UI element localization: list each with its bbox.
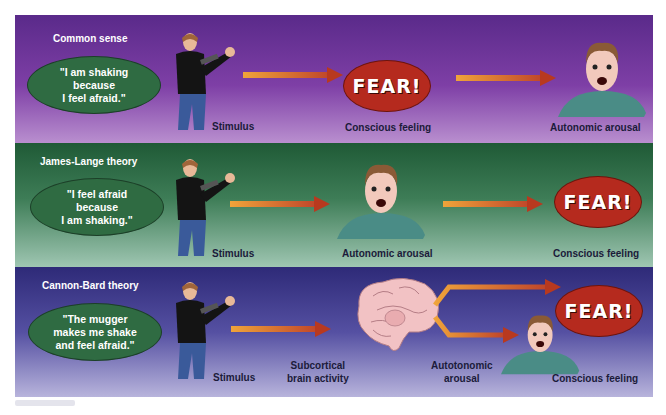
arrow-right-icon xyxy=(456,70,556,86)
fear-bubble: FEAR! xyxy=(343,60,431,112)
label-stimulus: Stimulus xyxy=(213,371,255,384)
label-stimulus: Stimulus xyxy=(212,120,254,133)
panel-title: Cannon-Bard theory xyxy=(42,280,139,291)
panel-james-lange: James-Lange theory "I feel afraid becaus… xyxy=(15,143,653,267)
quote-text: "I feel afraid because I am shaking." xyxy=(61,188,133,227)
panel-common-sense: Common sense "I am shaking because I fee… xyxy=(15,15,653,143)
brain-icon xyxy=(353,276,441,356)
arrow-right-icon xyxy=(443,196,543,212)
label-subcortical-brain-activity: Subcortical brain activity xyxy=(287,359,349,385)
quote-ellipse: "I feel afraid because I am shaking." xyxy=(30,178,164,236)
frightened-face-icon xyxy=(558,37,648,119)
arrow-right-icon xyxy=(231,321,331,337)
fear-bubble: FEAR! xyxy=(554,176,642,228)
panel-cannon-bard: Cannon-Bard theory "The mugger makes me … xyxy=(15,267,653,397)
label-autonomic-arousal: Autonomic arousal xyxy=(342,247,433,260)
frightened-face-icon xyxy=(337,159,427,241)
label-conscious-feeling: Conscious feeling xyxy=(345,121,431,134)
arrow-right-icon xyxy=(243,67,343,83)
label-conscious-feeling: Conscious feeling xyxy=(552,372,638,385)
mugger-with-gun-icon xyxy=(170,32,248,132)
quote-text: "I am shaking because I feel afraid." xyxy=(60,66,129,105)
figure-caption-fragment xyxy=(15,400,75,406)
quote-ellipse: "The mugger makes me shake and feel afra… xyxy=(28,303,162,361)
label-autonomic-arousal: Autonomic arousal xyxy=(550,121,641,134)
panel-title: James-Lange theory xyxy=(40,156,137,167)
label-stimulus: Stimulus xyxy=(212,247,254,260)
quote-text: "The mugger makes me shake and feel afra… xyxy=(53,313,136,352)
panel-title: Common sense xyxy=(53,33,127,44)
label-autonomic-arousal: Autotonomic arousal xyxy=(431,359,493,385)
arrow-right-icon xyxy=(230,196,330,212)
label-conscious-feeling: Conscious feeling xyxy=(553,247,639,260)
quote-ellipse: "I am shaking because I feel afraid." xyxy=(27,56,161,114)
fear-bubble: FEAR! xyxy=(555,285,643,337)
